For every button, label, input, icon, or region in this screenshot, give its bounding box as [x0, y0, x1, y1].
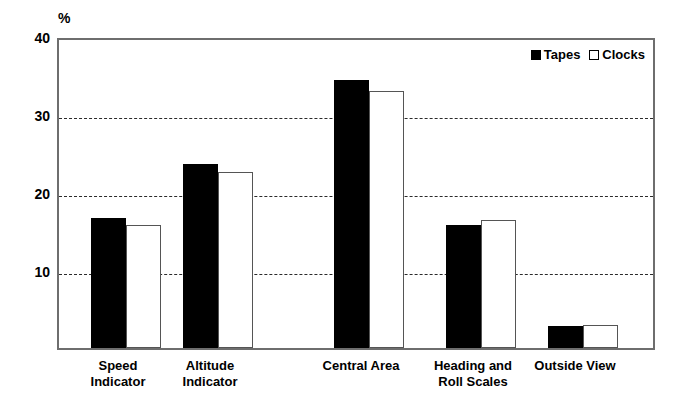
x-label-outside-view: Outside View: [513, 358, 637, 374]
x-label-outside-view-line1: Outside View: [513, 358, 637, 374]
y-tick-20: 20: [8, 187, 50, 201]
y-tick-30: 30: [8, 109, 50, 123]
x-label-altitude-indicator-line1: Altitude: [148, 358, 272, 374]
bar-tapes-speed-indicator: [91, 218, 126, 348]
y-axis-unit-label: %: [58, 10, 70, 26]
y-tick-10: 10: [8, 265, 50, 279]
bar-tapes-heading-roll-scales: [446, 225, 481, 348]
bar-clocks-speed-indicator: [126, 225, 161, 348]
legend-entry-clocks: Clocks: [589, 48, 645, 62]
x-label-altitude-indicator-line2: Indicator: [148, 374, 272, 390]
bar-tapes-altitude-indicator: [183, 164, 218, 348]
x-axis-category-labels: Speed Indicator Altitude Indicator Centr…: [0, 358, 682, 416]
hollow-square-icon: [589, 50, 599, 60]
legend: Tapes Clocks: [531, 48, 645, 62]
plot-area: Tapes Clocks: [57, 38, 655, 350]
bar-clocks-heading-roll-scales: [481, 220, 516, 348]
filled-square-icon: [531, 50, 541, 60]
bar-clocks-outside-view: [583, 325, 618, 348]
x-label-heading-roll-scales-line2: Roll Scales: [411, 374, 535, 390]
legend-label-clocks: Clocks: [602, 48, 645, 62]
bar-tapes-outside-view: [548, 326, 583, 348]
y-tick-40: 40: [8, 31, 50, 45]
bar-chart: % 40 30 20 10 Tapes: [0, 0, 682, 417]
x-label-altitude-indicator: Altitude Indicator: [148, 358, 272, 390]
bar-tapes-central-area: [334, 80, 369, 348]
bar-clocks-central-area: [369, 91, 404, 348]
legend-label-tapes: Tapes: [544, 48, 581, 62]
legend-entry-tapes: Tapes: [531, 48, 581, 62]
bar-clocks-altitude-indicator: [218, 172, 253, 348]
x-label-central-area: Central Area: [299, 358, 423, 374]
x-label-central-area-line1: Central Area: [299, 358, 423, 374]
